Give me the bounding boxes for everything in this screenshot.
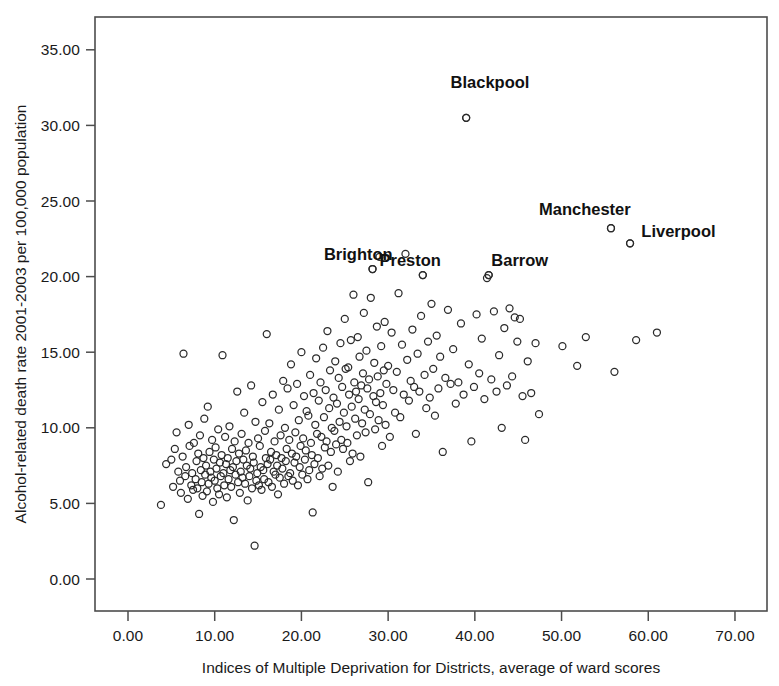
data-point: [404, 356, 411, 363]
data-point: [426, 394, 433, 401]
data-point: [171, 445, 178, 452]
data-point: [382, 421, 389, 428]
data-point: [390, 387, 397, 394]
data-point: [251, 542, 258, 549]
data-point: [337, 340, 344, 347]
data-point: [416, 388, 423, 395]
data-point: [349, 450, 356, 457]
data-point: [373, 323, 380, 330]
data-point: [372, 426, 379, 433]
data-point: [399, 341, 406, 348]
data-point: [263, 331, 270, 338]
data-point: [528, 390, 535, 397]
data-point: [317, 379, 324, 386]
y-axis-title: Alcohol-related death rate 2001-2003 per…: [12, 105, 29, 524]
data-point: [324, 328, 331, 335]
data-point: [180, 350, 187, 357]
data-point: [405, 397, 412, 404]
data-point: [225, 476, 232, 483]
data-point: [425, 338, 432, 345]
x-axis-tick-label: 60.00: [629, 627, 669, 644]
data-point: [219, 352, 226, 359]
data-point: [393, 368, 400, 375]
data-point: [582, 334, 589, 341]
point-annotation-label: Barrow: [491, 251, 548, 269]
data-point: [301, 393, 308, 400]
data-point: [294, 380, 301, 387]
data-point: [444, 306, 451, 313]
data-point: [380, 367, 387, 374]
data-point: [488, 376, 495, 383]
data-point: [428, 300, 435, 307]
data-point: [327, 367, 334, 374]
data-point: [457, 320, 464, 327]
data-point: [212, 444, 219, 451]
data-point: [340, 409, 347, 416]
data-point: [255, 435, 262, 442]
data-point: [506, 305, 513, 312]
data-point: [435, 385, 442, 392]
data-point: [421, 371, 428, 378]
data-point: [450, 346, 457, 353]
y-axis-tick-label: 10.00: [41, 419, 81, 436]
data-point: [470, 383, 477, 390]
data-point: [230, 517, 237, 524]
data-point: [307, 439, 314, 446]
data-point: [280, 377, 287, 384]
data-point: [229, 445, 236, 452]
data-point: [204, 403, 211, 410]
data-point: [320, 414, 327, 421]
data-point: [473, 311, 480, 318]
data-point: [653, 329, 660, 336]
data-point: [339, 383, 346, 390]
data-point: [346, 458, 353, 465]
data-point: [298, 349, 305, 356]
data-point: [203, 488, 210, 495]
data-point: [288, 361, 295, 368]
data-point: [190, 486, 197, 493]
point-annotation-label: Preston: [379, 251, 440, 269]
data-point: [363, 347, 370, 354]
data-point: [496, 352, 503, 359]
data-point: [296, 464, 303, 471]
data-point: [347, 337, 354, 344]
data-point: [362, 429, 369, 436]
data-point: [234, 388, 241, 395]
data-point: [433, 332, 440, 339]
data-point: [157, 501, 164, 508]
data-point: [498, 424, 505, 431]
data-point: [437, 353, 444, 360]
data-point: [395, 290, 402, 297]
data-point: [170, 483, 177, 490]
data-point: [281, 424, 288, 431]
x-axis-tick-label: 50.00: [542, 627, 582, 644]
point-annotation-label: Manchester: [539, 200, 631, 218]
data-point: [306, 467, 313, 474]
data-point: [400, 391, 407, 398]
data-point: [633, 337, 640, 344]
data-point: [442, 374, 449, 381]
data-point: [418, 312, 425, 319]
data-point: [611, 368, 618, 375]
data-point: [351, 379, 358, 386]
x-axis-tick-label: 40.00: [455, 627, 495, 644]
data-point: [266, 420, 273, 427]
data-point: [366, 376, 373, 383]
data-point: [353, 388, 360, 395]
data-point: [307, 371, 314, 378]
data-point: [226, 423, 233, 430]
data-point: [374, 373, 381, 380]
data-point-labelled: [369, 266, 376, 273]
data-point: [262, 427, 269, 434]
data-point: [281, 480, 288, 487]
data-point-labelled: [627, 240, 634, 247]
data-point: [372, 399, 379, 406]
data-point: [379, 402, 386, 409]
data-point: [350, 291, 357, 298]
data-point: [275, 406, 282, 413]
data-point: [246, 473, 253, 480]
data-point: [378, 343, 385, 350]
data-point: [501, 325, 508, 332]
data-point: [514, 338, 521, 345]
data-point: [364, 385, 371, 392]
